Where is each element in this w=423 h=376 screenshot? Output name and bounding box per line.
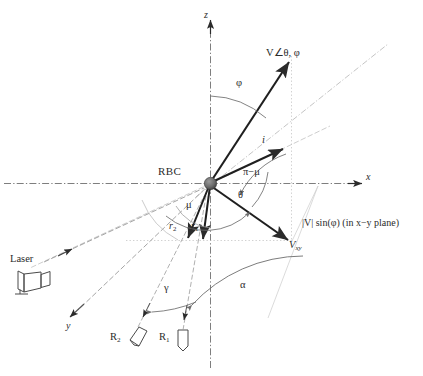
figure-canvas: z x y RBC V∠θ, φ i Vxy r1 r2 φ π−μ θ μ γ… bbox=[0, 0, 423, 376]
r2-detector-base: R bbox=[110, 331, 117, 342]
r2-beam bbox=[138, 196, 204, 327]
laser-label: Laser bbox=[10, 254, 33, 265]
r1-detector-base: R bbox=[159, 331, 166, 342]
projection-magnitude-label: |V| sin(φ) (in x−y plane) bbox=[302, 218, 399, 228]
axis-x-label: x bbox=[366, 172, 370, 182]
angle-alpha-label: α bbox=[240, 280, 246, 291]
r1-detector-subscript: 1 bbox=[166, 336, 170, 344]
arc-gamma bbox=[152, 302, 196, 312]
angle-phi-label: φ bbox=[236, 78, 242, 89]
angle-pi-minus-mu-label: π−μ bbox=[243, 167, 260, 178]
vxy-label: Vxy bbox=[289, 240, 302, 252]
detector-r1-label: R1 bbox=[159, 332, 170, 344]
r2-subscript: 2 bbox=[173, 225, 176, 232]
arc-alpha bbox=[192, 256, 303, 305]
rbc-marker bbox=[204, 177, 216, 189]
angle-gamma-label: γ bbox=[164, 283, 169, 294]
diagram-svg bbox=[0, 0, 423, 376]
detector-r2-icon bbox=[130, 327, 147, 346]
r1-vector-label: r1 bbox=[191, 221, 198, 233]
velocity-vector-label: V∠θ, φ bbox=[266, 48, 300, 59]
vxy-subscript: xy bbox=[295, 244, 301, 252]
incident-vector-label: i bbox=[262, 135, 265, 146]
r2-vector-label: r2 bbox=[169, 221, 176, 233]
r1-subscript: 1 bbox=[195, 225, 198, 232]
angle-theta-label: θ bbox=[238, 190, 243, 201]
angle-mu-label: μ bbox=[186, 200, 192, 211]
axis-z-label: z bbox=[204, 10, 208, 20]
arc-phi bbox=[211, 96, 267, 118]
r1-beam bbox=[183, 196, 206, 330]
r2-detector-subscript: 2 bbox=[117, 336, 121, 344]
detector-r2-label: R2 bbox=[110, 332, 121, 344]
rbc-label: RBC bbox=[158, 166, 181, 177]
axis-y-label: y bbox=[66, 321, 70, 331]
laser-icon bbox=[15, 271, 50, 294]
detector-r1-icon bbox=[178, 330, 188, 351]
